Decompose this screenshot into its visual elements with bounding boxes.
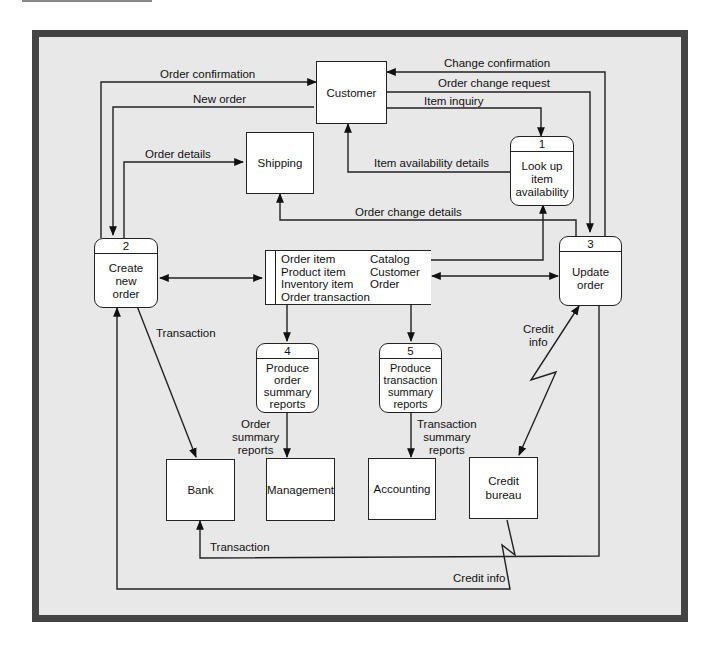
label-line: Order — [232, 418, 279, 431]
data-store-column-1: Order item Product item Inventory item O… — [281, 253, 370, 303]
label-credit-info-p3: Credit info — [523, 323, 554, 349]
process-label-line: summary — [264, 386, 311, 398]
process-3-update-order[interactable]: 3 Update order — [559, 236, 622, 306]
entity-management-label: Management — [267, 483, 334, 497]
process-number: 3 — [560, 237, 621, 252]
process-label-line: reports — [270, 398, 306, 410]
entity-shipping-label: Shipping — [258, 156, 303, 170]
label-line: info — [523, 336, 554, 349]
data-store-entry: Order — [370, 278, 420, 291]
entity-customer[interactable]: Customer — [316, 61, 387, 124]
data-store-id-bar — [265, 251, 276, 304]
label-line: reports — [232, 444, 279, 457]
process-4-produce-order-summary-reports[interactable]: 4 Produce order summary reports — [256, 343, 319, 413]
entity-credit-bureau[interactable]: Credit bureau — [469, 457, 538, 519]
process-number: 4 — [257, 344, 318, 359]
process-number: 1 — [511, 137, 573, 152]
label-order-change-details: Order change details — [355, 206, 462, 219]
label-item-availability-details: Item availability details — [374, 157, 489, 170]
label-order-details: Order details — [145, 148, 211, 161]
process-number: 2 — [95, 239, 157, 254]
label-order-summary-reports: Order summary reports — [232, 418, 279, 457]
data-store-entry: Order item — [281, 253, 370, 266]
flow-order-details — [124, 162, 243, 238]
entity-shipping[interactable]: Shipping — [246, 132, 314, 194]
entity-credit-bureau-line1: Credit — [488, 474, 519, 488]
process-label-line: item — [531, 173, 553, 186]
process-label-line: order — [577, 279, 604, 292]
entity-bank-label: Bank — [187, 483, 213, 497]
label-line: Credit — [523, 323, 554, 336]
process-1-look-up-item-availability[interactable]: 1 Look up item availability — [510, 136, 574, 206]
label-new-order: New order — [193, 93, 246, 106]
data-store[interactable]: Order item Product item Inventory item O… — [265, 250, 431, 305]
data-store-entry: Customer — [370, 266, 420, 279]
data-store-entry: Product item — [281, 266, 370, 279]
entity-management[interactable]: Management — [266, 458, 335, 521]
entity-customer-label: Customer — [327, 86, 377, 100]
process-number: 5 — [380, 344, 441, 359]
entity-accounting-label: Accounting — [374, 482, 431, 496]
label-change-confirmation: Change confirmation — [444, 57, 550, 70]
data-store-entry: Inventory item — [281, 278, 370, 291]
data-store-column-2: Catalog Customer Order — [370, 253, 420, 291]
label-transaction-p2-bank: Transaction — [156, 327, 216, 340]
process-label-line: reports — [393, 398, 427, 410]
label-order-confirmation: Order confirmation — [160, 68, 255, 81]
entity-bank[interactable]: Bank — [166, 459, 235, 521]
label-credit-info-bureau-p2: Credit info — [453, 572, 505, 585]
process-label-line: order — [274, 374, 301, 386]
process-label-line: Produce — [266, 362, 309, 374]
label-transaction-summary-reports: Transaction summary reports — [417, 418, 477, 457]
process-label-line: Create new — [98, 262, 154, 288]
entity-credit-bureau-line2: bureau — [486, 488, 522, 502]
process-label-line: Look up — [522, 160, 563, 173]
label-order-change-request: Order change request — [438, 77, 550, 90]
process-2-create-new-order[interactable]: 2 Create new order — [94, 238, 158, 308]
label-item-inquiry: Item inquiry — [424, 95, 483, 108]
label-transaction-p3-bank: Transaction — [210, 541, 270, 554]
label-line: summary — [417, 431, 477, 444]
process-label-line: Produce — [390, 362, 431, 374]
data-store-entry: Catalog — [370, 253, 420, 266]
process-label-line: availability — [515, 186, 568, 199]
process-label-line: transaction — [384, 374, 438, 386]
process-label-line: order — [113, 288, 140, 301]
flow-item-inquiry — [386, 108, 541, 136]
process-5-produce-transaction-summary-reports[interactable]: 5 Produce transaction summary reports — [379, 343, 442, 413]
label-line: summary — [232, 431, 279, 444]
process-label-line: Update — [572, 266, 609, 279]
label-line: reports — [417, 444, 477, 457]
entity-accounting[interactable]: Accounting — [368, 458, 436, 520]
label-line: Transaction — [417, 418, 477, 431]
data-store-entry: Order transaction — [281, 291, 370, 304]
process-label-line: summary — [388, 386, 433, 398]
